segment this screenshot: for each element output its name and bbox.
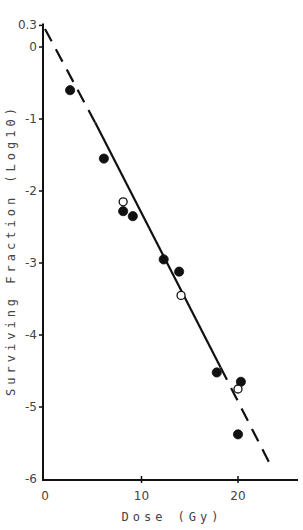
axis-ticks: 0.30-1-2-3-4-5-601020: [18, 18, 246, 503]
y-tick-label: -5: [25, 400, 37, 414]
y-tick-label: -3: [25, 256, 37, 270]
filled-data-point: [233, 430, 242, 439]
x-axis-title: Dose (Gy): [121, 510, 222, 524]
fit-line: [45, 29, 273, 470]
filled-data-point: [175, 267, 184, 276]
filled-data-point: [212, 368, 221, 377]
open-data-point: [234, 385, 242, 393]
open-data-point: [119, 198, 127, 206]
open-data-point: [177, 291, 185, 299]
data-points: [65, 86, 245, 439]
survival-curve-chart: 0.30-1-2-3-4-5-601020 Dose (Gy) Survivin…: [0, 0, 303, 530]
filled-data-point: [119, 207, 128, 216]
y-axis-title: Surviving Fraction (Log10): [4, 104, 18, 396]
filled-data-point: [159, 255, 168, 264]
y-tick-label: -6: [25, 472, 37, 486]
x-tick-label: 20: [230, 489, 245, 503]
filled-data-point: [65, 86, 74, 95]
fit-line-dashed: [221, 367, 273, 469]
filled-data-point: [99, 154, 108, 163]
x-tick-label: 10: [134, 489, 149, 503]
axes: [42, 23, 298, 480]
y-tick-label: -1: [25, 112, 37, 126]
y-tick-label: -4: [25, 328, 37, 342]
y-tick-label: 0: [29, 40, 37, 54]
y-tick-label: 0.3: [18, 18, 37, 32]
x-tick-label: 0: [41, 489, 49, 503]
filled-data-point: [128, 212, 137, 221]
fit-line-solid: [95, 123, 220, 368]
y-tick-label: -2: [25, 184, 37, 198]
fit-line-dashed: [45, 29, 95, 123]
